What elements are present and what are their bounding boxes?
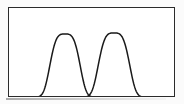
plot-background <box>9 8 175 97</box>
plot-frame <box>8 7 175 97</box>
figure-drop-shadow <box>6 98 166 100</box>
figure-root <box>0 0 184 104</box>
plot-svg <box>9 8 175 97</box>
